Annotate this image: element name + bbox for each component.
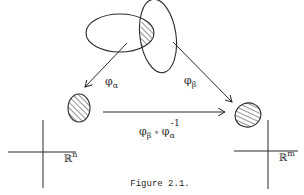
- label-phi-alpha: φα: [105, 75, 119, 90]
- image-in-rm: [232, 99, 265, 130]
- chart-transition-diagram: φα φβ φβ∘φα-1 ℝn ℝm Figure 2.1.: [0, 0, 304, 195]
- overlap-region: [140, 0, 176, 73]
- label-transition-map: φβ∘φα-1: [139, 118, 180, 140]
- arrow-phi-beta: [173, 42, 232, 102]
- label-phi-beta: φβ: [184, 74, 197, 89]
- figure-caption: Figure 2.1.: [130, 179, 189, 189]
- image-in-rn: [68, 94, 90, 122]
- label-rn: ℝn: [64, 150, 77, 164]
- label-rm: ℝm: [279, 149, 295, 163]
